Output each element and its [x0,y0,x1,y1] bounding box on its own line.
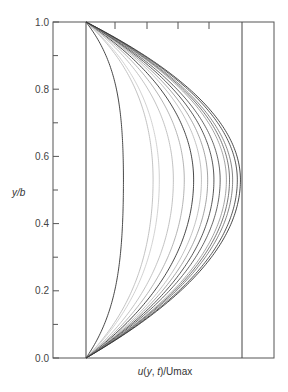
top-axis-ticks [115,22,209,29]
y-tick-label: 0.8 [35,84,49,95]
y-tick-label: 0.6 [35,151,49,162]
x-label-rest: )/Umax [160,366,192,377]
velocity-profile-curve [86,22,159,358]
velocity-curves [86,22,240,358]
velocity-profile-curve [86,22,194,358]
y-tick-label: 0.0 [35,353,49,364]
y-tick-label: 0.2 [35,285,49,296]
velocity-profile-curve [86,22,153,358]
y-axis-label: y/b [11,187,26,198]
velocity-profile-curve [86,22,123,358]
velocity-profile-chart: 0.00.20.40.60.81.0 y/b u(y, t)/Umax [0,0,288,392]
y-tick-label: 0.4 [35,218,49,229]
y-axis-ticks: 0.00.20.40.60.81.0 [35,17,59,364]
x-axis-label: u(y, t)/Umax [138,366,192,377]
y-tick-label: 1.0 [35,17,49,28]
